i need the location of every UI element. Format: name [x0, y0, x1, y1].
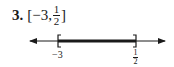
fraction-denominator: 2: [134, 58, 138, 66]
fraction-numerator: 1: [134, 49, 138, 57]
left-arrow-icon: [29, 38, 37, 44]
right-arrow-icon: [158, 38, 166, 44]
left-endpoint-label: −3: [52, 49, 63, 60]
right-endpoint-label: 1 2: [133, 49, 138, 66]
number-line: [0, 0, 174, 67]
